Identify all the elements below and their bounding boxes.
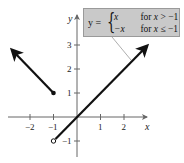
legend-expr: x bbox=[114, 12, 138, 22]
y-axis-label: y bbox=[67, 13, 73, 24]
legend-lhs: y = bbox=[88, 17, 101, 28]
cond-prefix: for bbox=[140, 12, 153, 22]
x-tick-label: 2 bbox=[122, 122, 127, 132]
x-tick-label: 1 bbox=[98, 122, 103, 132]
y-tick-label: 1 bbox=[67, 88, 72, 98]
legend-expr: −x bbox=[114, 24, 138, 34]
legend-condition: for x ≤ −1 bbox=[140, 24, 178, 34]
cond-rel: ≤ −1 bbox=[158, 24, 178, 34]
legend-condition: for x > −1 bbox=[140, 12, 178, 22]
cond-prefix: for bbox=[140, 24, 153, 34]
cond-rel: > −1 bbox=[158, 12, 178, 22]
x-tick-label: −2 bbox=[25, 122, 35, 132]
x-axis-label: x bbox=[144, 121, 150, 132]
legend-pointer bbox=[112, 37, 131, 60]
y-tick-label: −1 bbox=[62, 136, 72, 146]
function-legend: y = { x for x > −1 −x for x ≤ −1 bbox=[83, 8, 180, 37]
y-tick-label: 3 bbox=[67, 40, 72, 50]
x-tick-label: −1 bbox=[48, 122, 58, 132]
legend-row-1: x for x > −1 bbox=[114, 12, 178, 22]
open-endpoint bbox=[51, 139, 55, 143]
closed-endpoint bbox=[51, 91, 56, 96]
legend-row-2: −x for x ≤ −1 bbox=[114, 24, 178, 34]
series-line-neg-x bbox=[13, 51, 54, 93]
y-tick-label: 2 bbox=[67, 64, 72, 74]
